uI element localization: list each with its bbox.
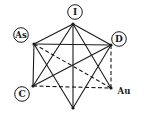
node-label-i: I [68,5,83,20]
vertex-dot-c [31,84,34,87]
vertex-dot-d [109,43,112,46]
edge-as-c [33,44,34,86]
edges-group [33,24,111,108]
edge-d-c [33,45,111,86]
node-label-text: As [14,30,27,40]
node-label-text: D [115,34,123,44]
node-label-c: C [15,87,30,102]
node-label-as: As [14,28,29,43]
edge-i-au [73,24,111,88]
vertex-dot-b [71,106,74,109]
node-label-text: Au [117,86,131,96]
graph-diagram: IAsDCAu [0,0,144,115]
node-label-text: C [18,89,25,99]
node-label-d: D [112,32,127,47]
node-label-au: Au [117,86,131,96]
edge-c-au [33,86,111,88]
vertex-dot-au [109,86,112,89]
edge-as-d [34,44,111,45]
vertex-dot-i [71,22,74,25]
node-label-text: I [73,7,77,17]
vertex-dot-as [32,42,35,45]
